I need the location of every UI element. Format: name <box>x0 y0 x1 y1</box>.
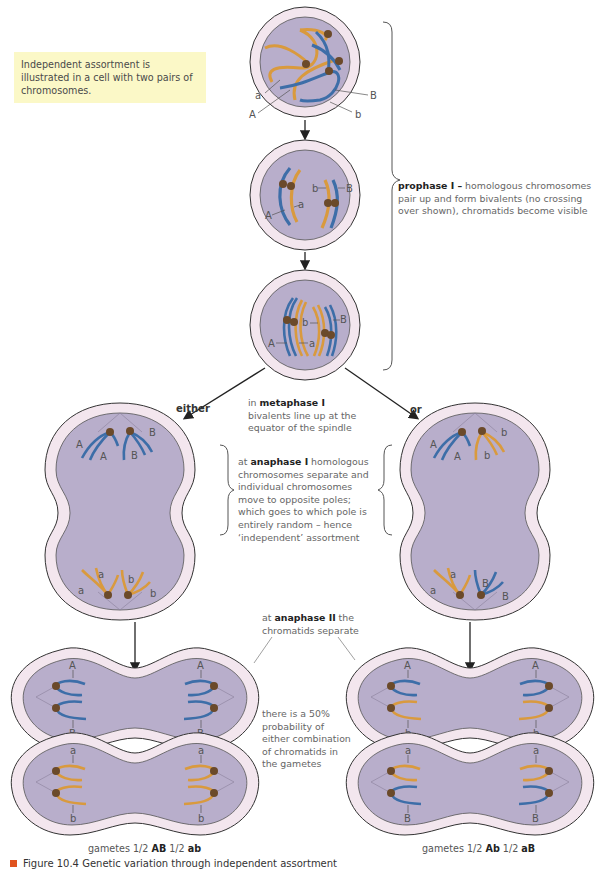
label-A: A <box>249 109 256 120</box>
svg-text:b: b <box>128 574 134 585</box>
anaphase1-brace-left <box>220 445 234 535</box>
gametes-left: gametes 1/2 AB 1/2 ab <box>88 843 201 854</box>
svg-text:a: a <box>430 585 436 596</box>
svg-text:a: a <box>309 338 315 349</box>
svg-text:B: B <box>532 813 539 824</box>
cell-prophase-pairs: A a b B <box>250 140 360 250</box>
metaphase-description: in metaphase I bivalents line up at the … <box>248 397 363 435</box>
svg-text:A: A <box>268 338 275 349</box>
cell-anaphase2-right-bottom: a B a B <box>346 733 593 835</box>
anaphase1-description: at anaphase I homologous chromosomes sep… <box>238 456 378 544</box>
prophase-description: prophase I – homologous chromosomes pair… <box>398 180 598 218</box>
svg-text:B: B <box>340 314 347 325</box>
cell-anaphase2-left-bottom: a b a b <box>11 733 258 835</box>
anaphase1-brace-right <box>378 445 392 535</box>
svg-text:b: b <box>484 450 490 461</box>
svg-text:B: B <box>482 578 489 589</box>
svg-text:a: a <box>298 199 304 210</box>
svg-text:B: B <box>149 427 156 438</box>
svg-text:b: b <box>70 813 76 824</box>
svg-text:a: a <box>70 745 76 756</box>
svg-text:B: B <box>502 591 509 602</box>
caption-marker-icon <box>10 860 17 867</box>
svg-text:A: A <box>454 451 461 462</box>
svg-text:A: A <box>404 660 411 671</box>
cell-prophase-bivalents: A a b B <box>250 270 360 380</box>
label-b: b <box>355 109 361 120</box>
svg-text:A: A <box>76 439 83 450</box>
svg-text:b: b <box>150 588 156 599</box>
svg-text:A: A <box>197 660 204 671</box>
label-B: B <box>370 90 377 101</box>
svg-text:B: B <box>404 813 411 824</box>
gametes-right: gametes 1/2 Ab 1/2 aB <box>422 843 535 854</box>
cell-anaphase1-right: A A b b a a B B <box>400 403 550 620</box>
svg-text:b: b <box>302 317 308 328</box>
svg-text:A: A <box>532 660 539 671</box>
svg-text:A: A <box>69 660 76 671</box>
svg-text:A: A <box>265 210 272 221</box>
svg-text:b: b <box>501 427 507 438</box>
svg-text:a: a <box>198 745 204 756</box>
svg-text:b: b <box>312 183 318 194</box>
leader-anaphase2-right <box>338 637 355 660</box>
or-label: or <box>410 404 422 415</box>
svg-text:a: a <box>450 569 456 580</box>
svg-text:A: A <box>100 451 107 462</box>
svg-text:b: b <box>198 813 204 824</box>
svg-text:a: a <box>533 745 539 756</box>
figure-caption: Figure 10.4 Genetic variation through in… <box>10 858 337 869</box>
svg-text:B: B <box>346 183 353 194</box>
leader-anaphase2-left <box>254 637 272 663</box>
anaphase2-description: at anaphase II the chromatids separate <box>262 612 362 637</box>
label-a: a <box>255 90 261 101</box>
probability-description: there is a 50% probability of either com… <box>262 708 354 771</box>
svg-text:a: a <box>405 745 411 756</box>
svg-text:a: a <box>98 569 104 580</box>
either-label: either <box>176 403 210 414</box>
svg-text:A: A <box>430 439 437 450</box>
svg-text:B: B <box>131 450 138 461</box>
cell-anaphase1-left: A A B B a a b b <box>45 403 195 620</box>
svg-text:a: a <box>78 585 84 596</box>
cell-prophase-early: a A B b <box>249 7 377 120</box>
